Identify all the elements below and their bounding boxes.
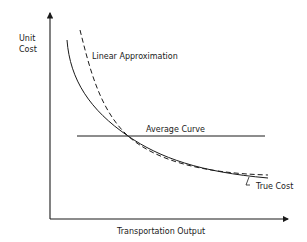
chart-canvas: Unit Cost Linear Approximation Average C… — [0, 0, 307, 242]
true-cost-label: True Cost — [255, 182, 293, 191]
y-axis-label-line2: Cost — [19, 45, 37, 54]
average-curve-label: Average Curve — [146, 125, 205, 134]
x-axis-label: Transportation Output — [116, 227, 205, 236]
y-axis-label-line1: Unit — [19, 34, 35, 43]
true-cost-pointer — [246, 177, 250, 185]
linear-approximation-label: Linear Approximation — [92, 52, 178, 61]
